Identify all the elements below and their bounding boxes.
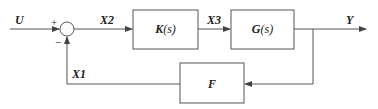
feedback-block-label: F <box>207 77 216 91</box>
minus-sign: − <box>55 36 61 48</box>
feedback-label: X1 <box>71 67 86 81</box>
input-label: U <box>15 13 25 27</box>
error-label: X2 <box>99 13 114 27</box>
plus-sign: + <box>51 16 57 28</box>
block-diagram: U + − X2 K(s) X3 G(s) Y F X1 <box>0 0 378 109</box>
control-label: X3 <box>206 13 221 27</box>
controller-label: K(s) <box>154 22 176 36</box>
output-label: Y <box>346 13 355 27</box>
plant-label: G(s) <box>252 22 273 36</box>
summing-junction <box>60 22 74 36</box>
